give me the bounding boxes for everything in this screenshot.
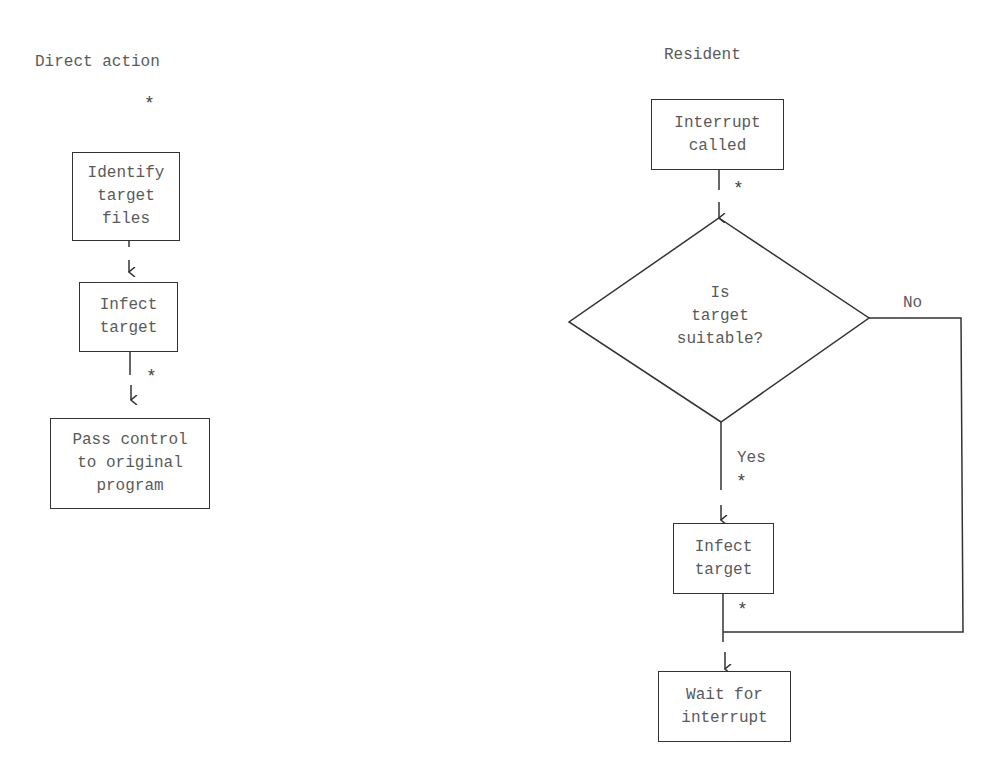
- asterisk-marker: *: [733, 179, 744, 199]
- infect-target-box-left: Infect target: [79, 282, 178, 352]
- decision-label: Is target suitable?: [640, 282, 800, 351]
- no-label: No: [903, 294, 922, 312]
- asterisk-marker: *: [144, 94, 155, 114]
- interrupt-called-box: Interrupt called: [651, 99, 784, 170]
- identify-target-files-box: Identify target files: [72, 152, 180, 241]
- asterisk-marker: *: [736, 472, 747, 492]
- connector-lines: [0, 0, 1000, 774]
- direct-action-title: Direct action: [35, 53, 160, 71]
- wait-for-interrupt-box: Wait for interrupt: [658, 671, 791, 742]
- yes-label: Yes: [737, 449, 766, 467]
- asterisk-marker: *: [146, 367, 157, 387]
- pass-control-box: Pass control to original program: [50, 418, 210, 509]
- infect-target-box-right: Infect target: [673, 523, 774, 594]
- asterisk-marker: *: [737, 600, 748, 620]
- resident-title: Resident: [664, 46, 741, 64]
